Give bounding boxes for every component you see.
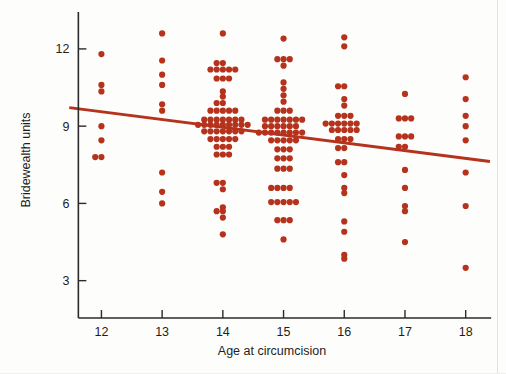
data-point <box>335 159 341 165</box>
data-point <box>207 108 213 114</box>
data-point <box>268 117 274 123</box>
data-point <box>214 180 220 186</box>
data-point <box>402 239 408 245</box>
data-point <box>274 123 280 129</box>
data-point <box>280 185 286 191</box>
data-point <box>268 185 274 191</box>
data-point <box>280 236 286 242</box>
data-point <box>207 128 213 134</box>
data-point <box>293 129 299 135</box>
data-point <box>159 101 165 107</box>
data-point <box>335 145 341 151</box>
data-point <box>274 137 280 143</box>
data-point <box>159 108 165 114</box>
data-point <box>159 30 165 36</box>
data-point <box>220 231 226 237</box>
data-point <box>274 166 280 172</box>
data-point <box>329 120 335 126</box>
data-point <box>396 115 402 121</box>
data-point <box>98 123 104 129</box>
data-point <box>329 127 335 133</box>
data-point <box>341 229 347 235</box>
data-point <box>280 137 286 143</box>
data-point <box>463 265 469 271</box>
data-point <box>220 136 226 142</box>
data-point <box>98 88 104 94</box>
data-point <box>226 144 232 150</box>
data-point <box>402 167 408 173</box>
data-point <box>159 200 165 206</box>
data-point <box>280 155 286 161</box>
data-point <box>98 51 104 57</box>
data-point <box>402 208 408 214</box>
data-point <box>402 185 408 191</box>
data-point <box>341 102 347 108</box>
data-point <box>220 128 226 134</box>
x-tick-label: 16 <box>337 325 351 339</box>
data-point <box>207 66 213 72</box>
data-point <box>280 99 286 105</box>
data-point <box>341 34 347 40</box>
data-point <box>214 208 220 214</box>
data-point <box>280 123 286 129</box>
data-point <box>220 208 226 214</box>
data-point <box>159 82 165 88</box>
data-point <box>220 186 226 192</box>
data-point <box>463 113 469 119</box>
data-point <box>341 113 347 119</box>
data-point <box>341 218 347 224</box>
data-point <box>287 146 293 152</box>
data-point <box>280 217 286 223</box>
data-point <box>347 127 353 133</box>
data-point <box>238 122 244 128</box>
data-point <box>402 115 408 121</box>
data-point <box>226 108 232 114</box>
x-tick-label: 18 <box>459 325 473 339</box>
data-point <box>214 136 220 142</box>
data-point <box>287 108 293 114</box>
data-point <box>335 120 341 126</box>
data-point <box>226 66 232 72</box>
data-point <box>92 154 98 160</box>
data-point <box>232 122 238 128</box>
data-point <box>159 57 165 63</box>
data-point <box>280 199 286 205</box>
data-point <box>214 75 220 81</box>
data-point <box>220 151 226 157</box>
data-point <box>220 180 226 186</box>
data-point <box>207 136 213 142</box>
data-point <box>287 117 293 123</box>
data-point <box>293 117 299 123</box>
data-point <box>220 66 226 72</box>
data-point <box>347 113 353 119</box>
data-point <box>335 127 341 133</box>
data-point <box>341 83 347 89</box>
data-point <box>463 169 469 175</box>
data-point <box>280 166 286 172</box>
x-tick-label: 13 <box>155 325 169 339</box>
data-point <box>280 63 286 69</box>
y-tick-label: 12 <box>55 42 69 56</box>
data-point <box>274 146 280 152</box>
data-point <box>220 144 226 150</box>
data-point <box>408 115 414 121</box>
data-point <box>220 60 226 66</box>
data-point <box>287 137 293 143</box>
plot-canvas: 36912 12131415161718 Age at circumcision… <box>0 0 506 374</box>
data-point <box>268 199 274 205</box>
data-point <box>280 108 286 114</box>
data-point <box>274 217 280 223</box>
data-point <box>214 144 220 150</box>
data-point <box>287 166 293 172</box>
data-point <box>323 120 329 126</box>
page-edge-right <box>497 0 498 374</box>
data-point <box>287 155 293 161</box>
y-axis-title: Bridewealth units <box>19 112 33 207</box>
y-tick-label: 9 <box>62 120 69 134</box>
y-tick-label: 3 <box>62 274 69 288</box>
data-point <box>220 93 226 99</box>
data-point <box>463 137 469 143</box>
data-point <box>274 199 280 205</box>
data-point <box>408 133 414 139</box>
data-point <box>201 128 207 134</box>
